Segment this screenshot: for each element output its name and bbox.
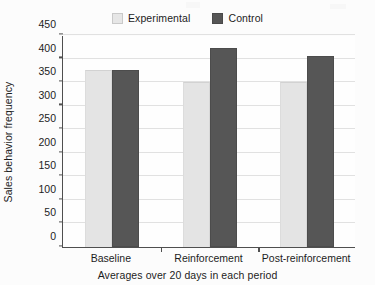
bar-control-post-reinforcement [307,56,334,247]
scan-artifact [330,4,346,9]
gridline [63,34,355,35]
bar-chart: Experimental Control Sales behavior freq… [0,0,375,285]
y-tick-label: 0 [50,231,56,242]
y-axis-title: Sales behavior frequency [0,36,16,248]
y-tick-label: 150 [38,160,56,171]
legend-swatch-control-icon [212,13,223,24]
y-tick-label: 400 [38,42,56,53]
x-axis-title-text: Averages over 20 days in each period [98,269,278,281]
bar-group [280,36,334,247]
y-tick-mark [59,33,63,34]
bar-group [85,36,139,247]
y-tick-label: 250 [38,113,56,124]
y-tick-label: 450 [38,19,56,30]
x-category-label: Reinforcement [174,252,242,264]
bar-control-reinforcement [210,48,237,247]
y-tick-label: 200 [38,136,56,147]
x-category-label: Post-reinforcement [262,252,351,264]
bar-series-group [63,36,355,247]
legend-label-control: Control [228,13,263,24]
legend-item-control: Control [212,13,263,24]
bar-group [183,36,237,247]
legend-label-experimental: Experimental [128,13,190,24]
y-tick-label: 100 [38,183,56,194]
legend-swatch-experimental-icon [112,13,123,24]
legend-item-experimental: Experimental [112,13,190,24]
x-axis-title: Averages over 20 days in each period [0,269,375,281]
x-category-label: Baseline [91,252,131,264]
y-tick-label: 300 [38,89,56,100]
y-tick-label: 350 [38,66,56,77]
x-axis-category-labels: BaselineReinforcementPost-reinforcement [56,252,368,266]
plot-wrapper: 050100150200250300350400450 [62,36,355,248]
bar-experimental-reinforcement [183,82,210,247]
bar-experimental-baseline [85,70,112,247]
scan-artifact [186,2,200,8]
bar-control-baseline [112,70,139,247]
y-tick-label: 50 [44,207,56,218]
y-axis-title-text: Sales behavior frequency [2,82,14,203]
plot-area: 050100150200250300350400450 [62,36,355,248]
bar-experimental-post-reinforcement [280,82,307,247]
